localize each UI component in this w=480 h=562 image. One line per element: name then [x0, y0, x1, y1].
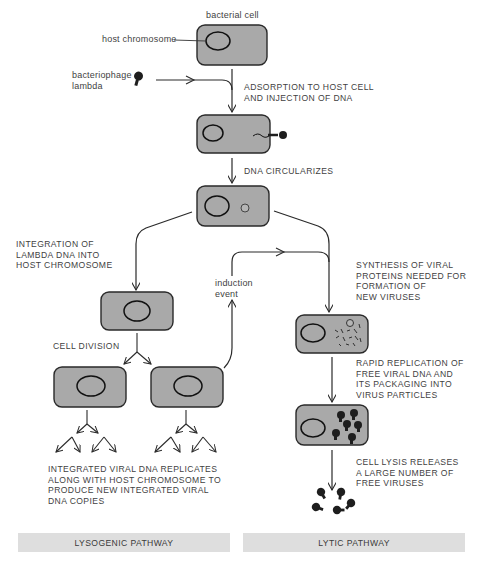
released-viruses: [311, 486, 357, 514]
arrow-to-lytic: [274, 211, 329, 312]
bacteriophage-icon: [132, 71, 144, 87]
replication-forks: [56, 410, 216, 452]
synthesis-label: SYNTHESIS OF VIRAL PROTEINS NEEDED FOR F…: [356, 260, 466, 302]
rapid-replication-label: RAPID REPLICATION OF FREE VIRAL DNA AND …: [356, 358, 464, 400]
integration-label: INTEGRATION OF LAMBDA DNA INTO HOST CHRO…: [16, 239, 113, 271]
induction-arrow: [224, 300, 232, 368]
protein-synthesis-cell: [296, 315, 368, 353]
bacteriophage-label: bacteriophage lambda: [72, 70, 132, 92]
cell-division-label: CELL DIVISION: [53, 341, 120, 352]
circularized-dna-cell: [197, 186, 269, 226]
daughter-cell-right: [151, 367, 223, 407]
lysogen-cell: [101, 292, 173, 330]
lysogenic-pathway-label: LYSOGENIC PATHWAY: [75, 538, 174, 548]
cell-division-fork: [124, 333, 151, 364]
lysogenic-pathway-bar: LYSOGENIC PATHWAY: [18, 533, 230, 552]
dna-circularizes-label: DNA CIRCULARIZES: [244, 166, 334, 177]
lytic-pathway-bar: LYTIC PATHWAY: [243, 533, 465, 552]
bacterial-cell-label: bacterial cell: [206, 10, 259, 21]
lytic-pathway-label: LYTIC PATHWAY: [318, 538, 390, 548]
bacterial-cell: [197, 25, 267, 65]
host-chromosome-label: host chromosome: [102, 34, 177, 45]
cell-lysis-label: CELL LYSIS RELEASES A LARGE NUMBER OF FR…: [356, 457, 459, 489]
virus-assembly-cell: [296, 405, 368, 445]
induction-event-label: induction event: [215, 278, 253, 300]
induction-loop: [232, 252, 329, 276]
adsorption-label: ADSORPTION TO HOST CELL AND INJECTION OF…: [244, 82, 374, 103]
adsorption-arrow-in: [156, 80, 232, 90]
infected-cell: [197, 115, 287, 153]
arrow-to-lysogenic: [136, 212, 192, 290]
integrated-replicates-label: INTEGRATED VIRAL DNA REPLICATES ALONG WI…: [48, 464, 221, 506]
daughter-cell-left: [54, 367, 126, 407]
